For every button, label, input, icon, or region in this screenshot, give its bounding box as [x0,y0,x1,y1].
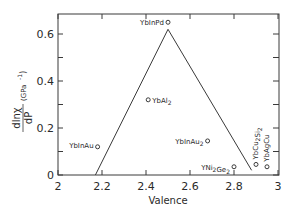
data-point-marker [232,165,236,169]
data-point-marker [166,20,170,24]
y-axis-title: dlnχdP(GPa-1) [11,71,34,132]
label-part: YbInAu [174,138,199,146]
x-tick-label: 3 [275,180,282,193]
y-title-close: ) [19,71,28,74]
point-label: YNi2Ge2 [200,164,230,175]
x-tick-label: 2.2 [93,180,111,193]
data-point-marker [146,98,150,102]
label-part: YbInPd [139,19,164,27]
subscript: 2 [200,140,204,147]
plot-axes [58,14,279,175]
x-tick-label: 2.4 [137,180,155,193]
y-tick-label: 0.4 [37,75,55,88]
y-title-denominator: dP [23,112,34,124]
y-tick-label: 0 [47,169,54,182]
point-label: YbInAu2 [174,138,203,147]
y-title-unit: (GPa [20,85,28,101]
point-label: YbAl2 [151,97,171,106]
x-tick-label: 2.8 [225,180,243,193]
valence-chart: 22.22.42.62.8300.20.40.6 YbInPdYbAl2YbIn… [0,0,300,212]
triangle-guide-line [95,29,251,175]
x-tick-label: 2 [55,180,62,193]
point-label: YbInAu [68,142,93,150]
point-label: YbCu2Si2 [252,127,263,160]
data-point-marker [206,139,210,143]
x-tick-label: 2.6 [181,180,199,193]
x-axis-title: Valence [148,195,187,206]
point-label: YbInPd [139,19,164,27]
trend-line [95,29,251,175]
label-part: Ge [216,166,226,174]
subscript: 2 [168,99,172,106]
data-point-marker [254,162,258,166]
label-part: YbCu [252,141,260,160]
y-tick-label: 0.6 [37,28,55,41]
subscript: 2 [226,168,230,175]
point-label: YbAgCu [263,134,271,162]
plot-frame [58,14,279,175]
y-title-numerator: dlnχ [11,107,22,128]
label-part: YbAgCu [263,134,271,162]
label-part: YbAl [151,97,168,105]
label-part: YbInAu [68,142,93,150]
subscript: 2 [256,127,263,131]
label-part: YNi [200,164,213,172]
data-point-marker [265,165,269,169]
y-tick-label: 0.2 [37,122,55,135]
data-point-marker [96,145,100,149]
